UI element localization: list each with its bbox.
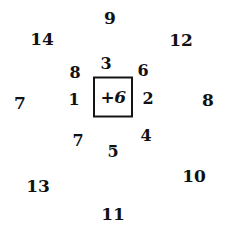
inner-ring-node-right: 2 [142, 91, 153, 107]
center-value-label: +6 [100, 89, 125, 106]
diagram-canvas: 9 12 8 10 11 13 7 14 3 6 2 4 5 7 1 8 +6 [0, 0, 226, 237]
outer-ring-node-top: 9 [104, 10, 116, 27]
inner-ring-node-bottom: 5 [107, 144, 118, 160]
outer-ring-node-bottom: 11 [101, 206, 125, 223]
inner-ring-node-bottom-left: 7 [72, 133, 83, 149]
outer-ring-node-top-right: 12 [169, 32, 193, 49]
outer-ring-node-left: 7 [14, 95, 26, 112]
outer-ring-node-top-left: 14 [30, 31, 54, 48]
outer-ring-node-bottom-left: 13 [26, 178, 50, 195]
inner-ring-node-left: 1 [68, 92, 79, 108]
inner-ring-node-top-right: 6 [137, 63, 148, 79]
outer-ring-node-right: 8 [202, 92, 214, 109]
inner-ring-node-top: 3 [100, 56, 111, 72]
inner-ring-node-top-left: 8 [69, 65, 80, 81]
center-value-box: +6 [93, 77, 133, 118]
outer-ring-node-bottom-right: 10 [182, 168, 206, 185]
inner-ring-node-bottom-right: 4 [140, 128, 151, 144]
